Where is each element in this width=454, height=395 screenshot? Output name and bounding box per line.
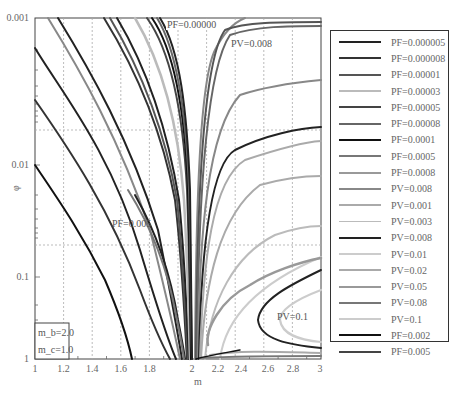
legend-item: PF=0.000005 bbox=[331, 34, 448, 50]
legend-line-swatch-icon bbox=[339, 57, 381, 59]
legend-item: PF=0.005 bbox=[331, 344, 448, 360]
legend-label: PV=0.003 bbox=[391, 216, 432, 227]
legend-line-swatch-icon bbox=[339, 188, 381, 190]
legend-line-swatch-icon bbox=[339, 204, 381, 206]
annotation-pv-01: PV=0.1 bbox=[277, 311, 308, 322]
legend-item: PF=0.000008 bbox=[331, 50, 448, 66]
legend-item: PF=0.0008 bbox=[331, 164, 448, 180]
svg-text:2.4: 2.4 bbox=[235, 363, 248, 374]
legend-line-swatch-icon bbox=[339, 334, 381, 336]
legend-line-swatch-icon bbox=[339, 286, 381, 288]
svg-text:2: 2 bbox=[190, 363, 195, 374]
legend-item: PV=0.008 bbox=[331, 181, 448, 197]
legend-item: PV=0.1 bbox=[331, 311, 448, 327]
svg-text:3: 3 bbox=[318, 363, 323, 374]
svg-text:1.8: 1.8 bbox=[143, 363, 156, 374]
legend-item: PF=0.0005 bbox=[331, 148, 448, 164]
legend-line-swatch-icon bbox=[339, 41, 381, 43]
annotation-pv-0008: PV=0.008 bbox=[231, 38, 272, 49]
legend-line-swatch-icon bbox=[339, 74, 381, 76]
svg-text:0.001: 0.001 bbox=[7, 12, 30, 23]
svg-text:0.01: 0.01 bbox=[12, 159, 30, 170]
legend-line-swatch-icon bbox=[339, 106, 381, 108]
legend-item: PF=0.00003 bbox=[331, 83, 448, 99]
y-axis-label: φ bbox=[10, 185, 21, 191]
legend-label: PV=0.001 bbox=[391, 200, 432, 211]
legend-item: PV=0.008 bbox=[331, 230, 448, 246]
legend-label: PF=0.00001 bbox=[391, 69, 440, 80]
svg-text:2.6: 2.6 bbox=[262, 363, 275, 374]
legend-line-swatch-icon bbox=[339, 139, 381, 141]
legend-line-swatch-icon bbox=[339, 123, 381, 125]
parameter-inset: m_b=2.0 m_c=1.0 bbox=[35, 323, 74, 359]
legend-item: PF=0.002 bbox=[331, 327, 448, 343]
legend-item: PF=0.0001 bbox=[331, 132, 448, 148]
legend-line-swatch-icon bbox=[339, 90, 381, 92]
legend: PF=0.000005PF=0.000008PF=0.00001PF=0.000… bbox=[330, 30, 449, 342]
svg-text:1: 1 bbox=[33, 363, 38, 374]
legend-label: PV=0.008 bbox=[391, 232, 432, 243]
legend-line-swatch-icon bbox=[339, 302, 381, 304]
svg-text:1.4: 1.4 bbox=[86, 363, 99, 374]
legend-label: PV=0.01 bbox=[391, 249, 427, 260]
x-axis-label: m bbox=[194, 376, 202, 387]
legend-line-swatch-icon bbox=[339, 351, 381, 353]
legend-label: PF=0.000005 bbox=[391, 37, 445, 48]
svg-text:2.2: 2.2 bbox=[212, 363, 225, 374]
legend-label: PF=0.00003 bbox=[391, 86, 440, 97]
legend-label: PV=0.02 bbox=[391, 265, 427, 276]
legend-item: PV=0.01 bbox=[331, 246, 448, 262]
legend-line-swatch-icon bbox=[339, 155, 381, 157]
legend-item: PF=0.00008 bbox=[331, 115, 448, 131]
svg-text:2.8: 2.8 bbox=[287, 363, 300, 374]
legend-item: PV=0.02 bbox=[331, 262, 448, 278]
legend-label: PF=0.000008 bbox=[391, 53, 445, 64]
legend-label: PF=0.00008 bbox=[391, 118, 440, 129]
svg-text:1.2: 1.2 bbox=[57, 363, 70, 374]
legend-label: PV=0.1 bbox=[391, 314, 422, 325]
annotation-pf-top: PF=0.00000 bbox=[167, 19, 216, 30]
legend-label: PF=0.0005 bbox=[391, 151, 435, 162]
legend-item: PV=0.001 bbox=[331, 197, 448, 213]
legend-label: PF=0.005 bbox=[391, 346, 430, 357]
inset-mc: m_c=1.0 bbox=[38, 344, 73, 355]
legend-line-swatch-icon bbox=[339, 269, 381, 271]
legend-label: PV=0.08 bbox=[391, 297, 427, 308]
legend-line-swatch-icon bbox=[339, 318, 381, 320]
legend-item: PV=0.003 bbox=[331, 213, 448, 229]
legend-line-swatch-icon bbox=[339, 253, 381, 255]
legend-label: PV=0.008 bbox=[391, 183, 432, 194]
legend-item: PV=0.08 bbox=[331, 295, 448, 311]
svg-text:1.6: 1.6 bbox=[115, 363, 128, 374]
legend-item: PF=0.00001 bbox=[331, 67, 448, 83]
legend-item: PV=0.05 bbox=[331, 278, 448, 294]
annotation-pf-0005: PF=0.005 bbox=[112, 218, 151, 229]
inset-mb: m_b=2.0 bbox=[38, 327, 74, 338]
legend-label: PF=0.00005 bbox=[391, 102, 440, 113]
legend-line-swatch-icon bbox=[339, 221, 381, 222]
legend-label: PF=0.0001 bbox=[391, 134, 435, 145]
svg-text:0.1: 0.1 bbox=[17, 271, 30, 282]
legend-label: PF=0.0008 bbox=[391, 167, 435, 178]
x-tick-labels: 1 1.2 1.4 1.6 1.8 2 2.2 2.4 2.6 2.8 3 bbox=[33, 363, 323, 374]
legend-line-swatch-icon bbox=[339, 172, 381, 174]
legend-line-swatch-icon bbox=[339, 237, 381, 239]
legend-label: PF=0.002 bbox=[391, 330, 430, 341]
svg-text:1: 1 bbox=[24, 353, 29, 364]
legend-label: PV=0.05 bbox=[391, 281, 427, 292]
legend-item: PF=0.00005 bbox=[331, 99, 448, 115]
